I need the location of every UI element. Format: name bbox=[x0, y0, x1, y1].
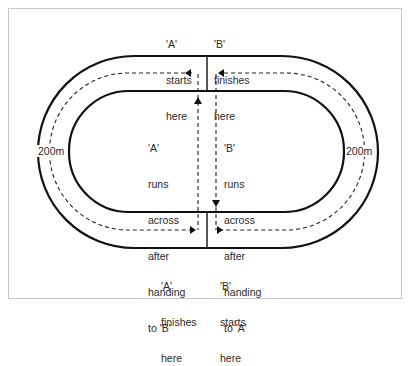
label-line: 'A' bbox=[161, 280, 197, 292]
label-line: starts bbox=[166, 74, 192, 86]
label-line: starts bbox=[220, 316, 246, 328]
inner-track bbox=[69, 91, 344, 212]
label-line: across bbox=[224, 214, 261, 226]
right-distance-label: 200m bbox=[345, 145, 373, 157]
label-line: here bbox=[161, 352, 197, 364]
arrow-a-up-icon bbox=[194, 97, 202, 104]
label-b-finishes: 'B' finishes here bbox=[214, 14, 250, 134]
label-line: 'B' bbox=[224, 142, 261, 154]
label-line: runs bbox=[224, 178, 261, 190]
label-line: 'A' bbox=[166, 38, 192, 50]
label-line: 'B' bbox=[214, 38, 250, 50]
label-line: runs bbox=[148, 178, 185, 190]
label-a-finishes: 'A' finishes here bbox=[161, 256, 197, 366]
left-distance-label: 200m bbox=[37, 145, 65, 157]
label-line: 'A' bbox=[148, 142, 185, 154]
label-line: across bbox=[148, 214, 185, 226]
label-line: finishes bbox=[161, 316, 197, 328]
label-line: 'B' bbox=[220, 280, 246, 292]
label-a-starts: 'A' starts here bbox=[166, 14, 192, 134]
label-b-starts: 'B' starts here bbox=[220, 256, 246, 366]
arrow-b-bottom-icon bbox=[217, 226, 223, 234]
arrow-a-bottom-icon bbox=[190, 226, 196, 234]
arrow-b-down-icon bbox=[212, 200, 220, 207]
label-line: finishes bbox=[214, 74, 250, 86]
label-line: here bbox=[220, 352, 246, 364]
